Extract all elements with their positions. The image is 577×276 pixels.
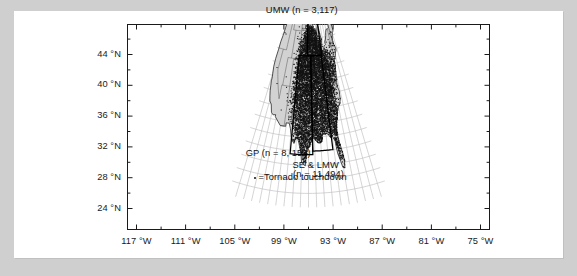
region-label-gp: GP (n = 8, 152) — [246, 148, 311, 159]
map-graphics — [127, 24, 490, 230]
y-axis-tick-label: 44 °N — [78, 49, 121, 59]
map-plot-area: UMW (n = 3,117) GP (n = 8, 152) SE & LMW… — [127, 24, 490, 230]
y-axis-tick-label: 28 °N — [78, 172, 121, 182]
region-label-umw: UMW (n = 3,117) — [266, 5, 338, 16]
legend-label: =Tornado touchdown — [258, 172, 346, 183]
x-axis-tick-label: 81 °W — [408, 236, 454, 246]
x-axis-tick-label: 117 °W — [114, 236, 160, 246]
x-axis-tick-label: 99 °W — [261, 236, 307, 246]
x-axis-tick-label: 93 °W — [310, 236, 356, 246]
x-axis-tick-label: 75 °W — [458, 236, 504, 246]
y-axis-tick-label: 32 °N — [78, 141, 121, 151]
y-axis-tick-label: 36 °N — [78, 110, 121, 120]
y-axis-tick-label: 40 °N — [78, 79, 121, 89]
x-axis-tick-label: 87 °W — [359, 236, 405, 246]
y-axis-tick-label: 24 °N — [78, 203, 121, 213]
x-axis-tick-label: 105 °W — [212, 236, 258, 246]
tornado-touchdown-map-figure: UMW (n = 3,117) GP (n = 8, 152) SE & LMW… — [0, 0, 577, 276]
x-axis-tick-label: 111 °W — [163, 236, 209, 246]
